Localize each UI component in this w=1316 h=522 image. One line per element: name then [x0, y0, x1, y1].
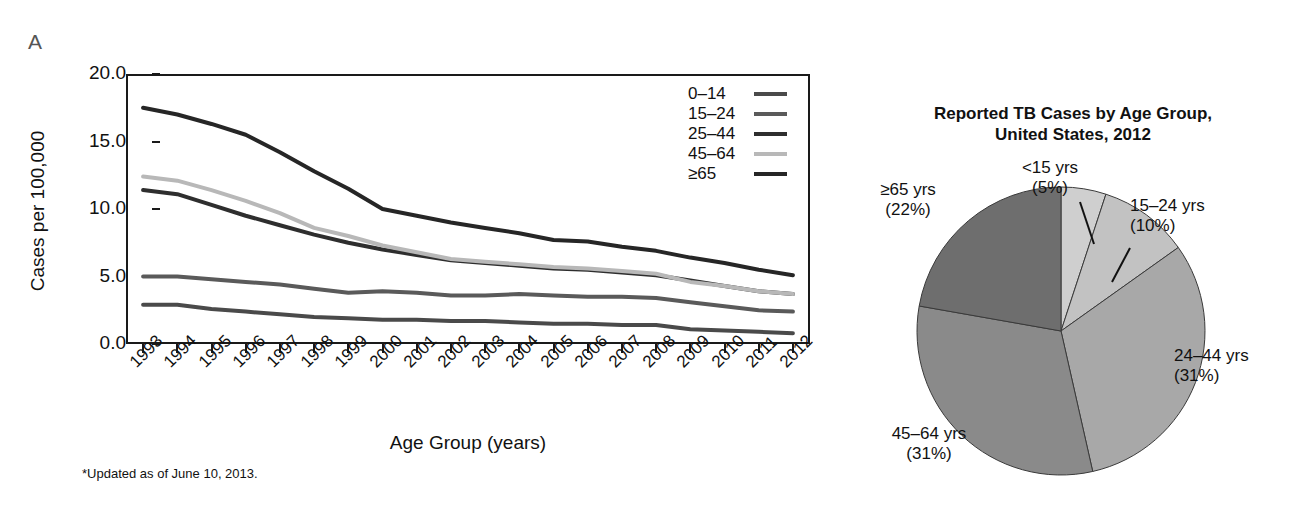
- pie-label-under-15-pct: (5%): [995, 178, 1105, 198]
- pie-label-45-64: 45–64 yrs (31%): [864, 424, 994, 464]
- x-axis-tick-labels: 1993199419951996199719981999200020012002…: [126, 352, 826, 422]
- legend-item-label: ≥65: [688, 164, 754, 184]
- pie-label-15-24-pct: (10%): [1130, 216, 1260, 236]
- legend-item-label: 0–14: [688, 84, 754, 104]
- legend-item-swatch: [754, 152, 787, 156]
- line-series-0–14: [143, 305, 793, 333]
- pie-label-24-44-text: 24–44 yrs: [1174, 346, 1249, 365]
- panel-b-pie-chart: B Reported TB Cases by Age Group, United…: [830, 0, 1316, 522]
- legend-item: ≥65: [688, 164, 800, 184]
- pie-label-15-24: 15–24 yrs (10%): [1130, 196, 1260, 236]
- footnote: *Updated as of June 10, 2013.: [82, 466, 258, 481]
- pie-chart-title: Reported TB Cases by Age Group, United S…: [830, 103, 1316, 145]
- pie-label-15-24-text: 15–24 yrs: [1130, 196, 1205, 215]
- pie-label-under-15-text: <15 yrs: [1022, 158, 1078, 177]
- y-tick-label: 20.0: [50, 62, 126, 84]
- legend-item-swatch: [754, 172, 787, 176]
- legend-item-swatch: [754, 112, 787, 116]
- legend-item-label: 25–44: [688, 124, 754, 144]
- legend-item-swatch: [754, 92, 787, 96]
- legend-item-label: 45–64: [688, 144, 754, 164]
- legend-item: 0–14: [688, 84, 800, 104]
- pie-label-24-44-pct: (31%): [1174, 366, 1304, 386]
- pie-title-line-1: Reported TB Cases by Age Group,: [830, 103, 1316, 124]
- legend-item-label: 15–24: [688, 104, 754, 124]
- legend-item: 25–44: [688, 124, 800, 144]
- y-tick-label: 15.0: [50, 130, 126, 152]
- legend-item-swatch: [754, 132, 787, 136]
- pie-label-under-15: <15 yrs (5%): [995, 158, 1105, 198]
- y-axis-title: Cases per 100,000: [27, 81, 49, 341]
- y-tick-label: 10.0: [50, 197, 126, 219]
- y-tick-label: 0.0: [50, 332, 126, 354]
- pie-label-65-plus-pct: (22%): [848, 200, 968, 220]
- legend-item: 15–24: [688, 104, 800, 124]
- y-tick-label: 5.0: [50, 265, 126, 287]
- pie-label-45-64-pct: (31%): [864, 444, 994, 464]
- pie-label-65-plus: ≥65 yrs (22%): [848, 180, 968, 220]
- legend: 0–1415–2425–4445–64≥65: [688, 84, 800, 184]
- pie-label-45-64-text: 45–64 yrs: [892, 424, 967, 443]
- x-axis-title: Age Group (years): [126, 432, 810, 454]
- line-series-25–44: [143, 190, 793, 294]
- legend-item: 45–64: [688, 144, 800, 164]
- pie-label-65-plus-text: ≥65 yrs: [880, 180, 936, 199]
- panel-a-line-chart: A 0.05.010.015.020.0 Cases per 100,000 1…: [0, 0, 830, 522]
- pie-title-line-2: United States, 2012: [830, 124, 1316, 145]
- pie-label-24-44: 24–44 yrs (31%): [1174, 346, 1304, 386]
- line-series-45–64: [143, 177, 793, 294]
